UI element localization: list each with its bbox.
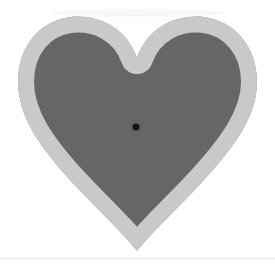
bottom-rule: [0, 258, 275, 259]
heart-figure: Gray heart shape with a small black poin…: [0, 0, 275, 268]
point-marker: [132, 123, 139, 130]
heart-fill: [18, 17, 257, 251]
heart-top-haze: [51, 9, 223, 17]
image-canvas: Gray heart shape with a small black poin…: [0, 0, 275, 268]
heart-fill-group: [18, 17, 257, 251]
